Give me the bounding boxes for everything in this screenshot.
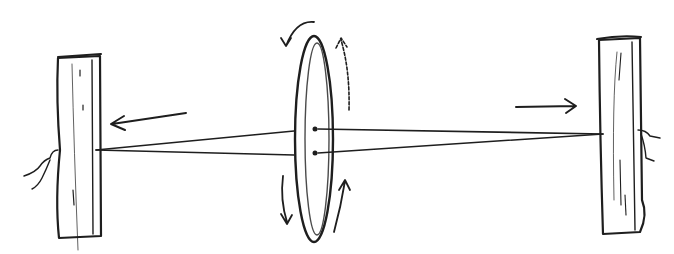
arrow-left-icon xyxy=(111,113,186,130)
strings xyxy=(96,129,603,155)
right-post xyxy=(597,36,645,234)
rotation-arrow-top-right xyxy=(336,38,349,110)
string-bottom xyxy=(96,134,603,155)
rotation-arrow-top-left xyxy=(281,22,314,46)
arrow-right-icon xyxy=(516,99,576,113)
string-disc-sketch xyxy=(0,0,674,254)
rotation-arrow-bottom-right xyxy=(334,180,350,232)
pull-arrow-left xyxy=(111,113,186,130)
rotation-arrow-bottom-left xyxy=(281,176,292,224)
left-post-string-tail xyxy=(24,150,58,189)
spinning-disc xyxy=(295,36,333,242)
pull-arrow-right xyxy=(516,99,576,113)
left-post xyxy=(57,54,101,250)
disc-hole-top xyxy=(313,127,318,132)
disc-hole-bottom xyxy=(313,151,318,156)
